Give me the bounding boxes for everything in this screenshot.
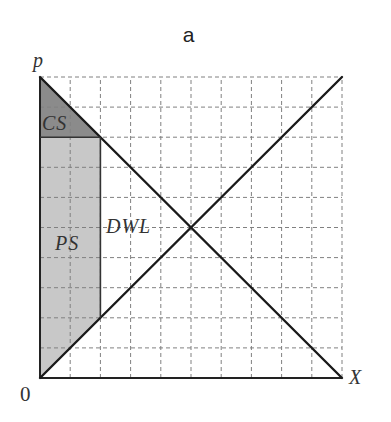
surplus-diagram: a p 0 X CS PS DWL (0, 0, 391, 422)
x-axis-label: X (348, 366, 362, 388)
surplus-figure: a p 0 X CS PS DWL (0, 0, 391, 422)
dwl-label: DWL (105, 215, 151, 237)
ps-label: PS (54, 232, 79, 254)
origin-label: 0 (20, 382, 31, 406)
chart-title: a (183, 23, 195, 46)
y-axis-label: p (31, 49, 44, 72)
cs-label: CS (42, 112, 67, 134)
